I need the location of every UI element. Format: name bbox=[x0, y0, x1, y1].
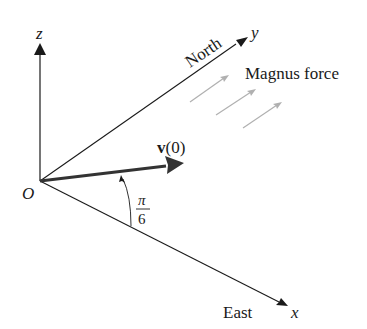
y-axis bbox=[40, 37, 248, 181]
z-axis bbox=[34, 43, 46, 181]
velocity-vector bbox=[40, 156, 184, 181]
magnus-arrow bbox=[190, 75, 229, 102]
north-label: North bbox=[182, 33, 226, 71]
origin-label: O bbox=[22, 184, 34, 203]
y-axis-label: y bbox=[249, 23, 259, 42]
x-axis-label: x bbox=[290, 303, 299, 322]
magnus-force-label: Magnus force bbox=[245, 64, 339, 83]
magnus-arrow bbox=[243, 102, 282, 128]
magnus-force-diagram: z y North x East O v(0) π 6 bbox=[0, 0, 367, 329]
z-axis-arrowhead-icon bbox=[34, 43, 46, 55]
magnus-arrowhead-icon bbox=[220, 75, 229, 82]
x-axis bbox=[40, 181, 288, 306]
angle-numerator: π bbox=[138, 192, 146, 208]
angle-arc bbox=[119, 175, 131, 226]
velocity-label: v(0) bbox=[157, 138, 185, 157]
angle-arrowhead-icon bbox=[119, 175, 125, 183]
magnus-arrowhead-icon bbox=[273, 102, 282, 109]
velocity-label-arg: (0) bbox=[166, 138, 186, 157]
east-label: East bbox=[223, 303, 253, 322]
velocity-arrowhead-icon bbox=[165, 156, 184, 174]
magnus-arrowhead-icon bbox=[247, 89, 256, 96]
angle-denominator: 6 bbox=[138, 211, 146, 227]
z-axis-label: z bbox=[35, 24, 43, 43]
magnus-arrow bbox=[216, 89, 256, 115]
y-axis-arrowhead-icon bbox=[236, 37, 248, 47]
